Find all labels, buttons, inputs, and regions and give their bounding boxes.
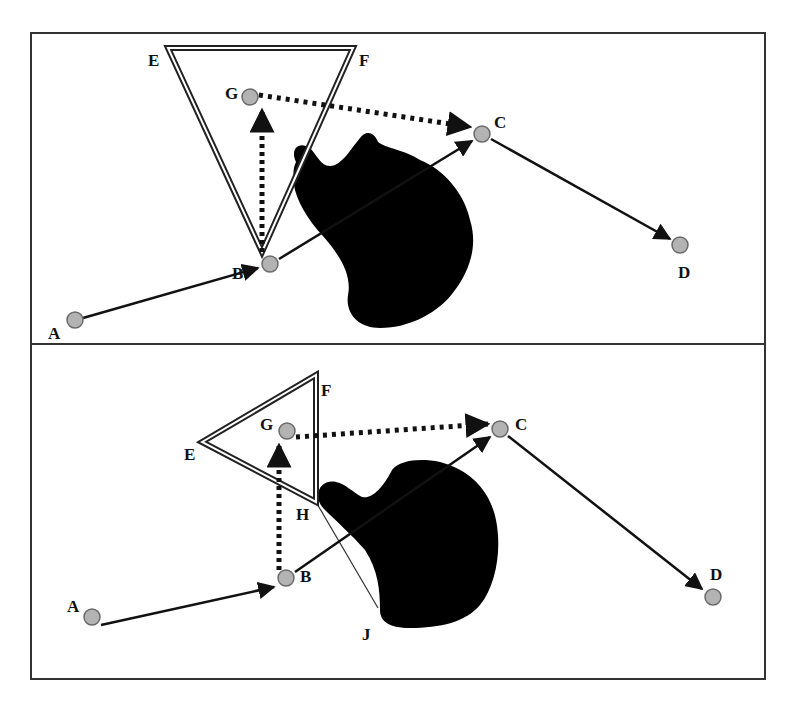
node-d bbox=[705, 589, 721, 605]
edge-a-b bbox=[101, 587, 274, 625]
label-e: E bbox=[184, 445, 195, 464]
obstacle-blob bbox=[293, 133, 473, 328]
label-d: D bbox=[678, 263, 690, 282]
label-b: B bbox=[232, 264, 243, 283]
node-d bbox=[672, 237, 688, 253]
edge-c-d bbox=[508, 436, 702, 589]
node-g bbox=[242, 89, 258, 105]
label-f: F bbox=[359, 51, 369, 70]
label-j: J bbox=[362, 625, 371, 644]
label-a: A bbox=[67, 597, 80, 616]
label-f: F bbox=[321, 381, 331, 400]
edge-g-c-dotted bbox=[296, 424, 488, 437]
node-b bbox=[262, 256, 278, 272]
label-d: D bbox=[710, 565, 722, 584]
label-c: C bbox=[494, 113, 506, 132]
panel-top: A B C D G E F bbox=[48, 48, 690, 343]
label-e: E bbox=[148, 51, 159, 70]
label-h: H bbox=[296, 505, 309, 524]
panel-bottom: A B C D G E F H J bbox=[67, 375, 722, 644]
node-c bbox=[492, 421, 508, 437]
label-a: A bbox=[48, 324, 61, 343]
obstacle-blob bbox=[318, 460, 498, 628]
node-a bbox=[67, 312, 83, 328]
label-b: B bbox=[300, 567, 311, 586]
node-c bbox=[474, 126, 490, 142]
label-c: C bbox=[515, 415, 527, 434]
edge-c-d bbox=[491, 139, 670, 239]
label-g: G bbox=[260, 415, 273, 434]
node-g bbox=[279, 423, 295, 439]
path-planning-diagram: A B C D G E F bbox=[0, 0, 790, 706]
node-a bbox=[84, 609, 100, 625]
label-g: G bbox=[225, 84, 238, 103]
node-b bbox=[278, 570, 294, 586]
edge-g-c-dotted bbox=[259, 95, 470, 127]
